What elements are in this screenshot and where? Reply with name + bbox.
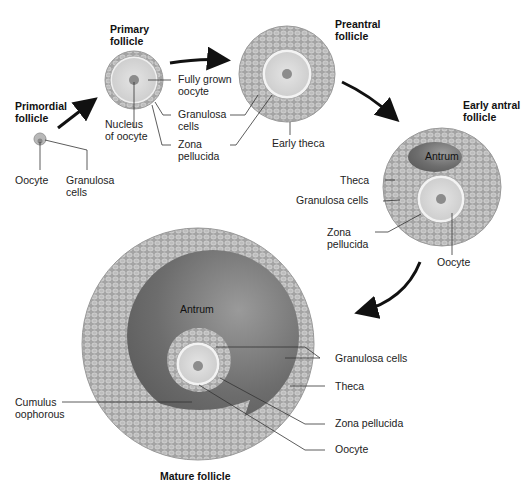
label-granulosa-early: Granulosa cells xyxy=(296,194,368,206)
preantral-follicle-graphic xyxy=(239,26,335,122)
label-cumulus-oophorous: Cumulus oophorous xyxy=(15,396,65,420)
diagram-graphics xyxy=(0,0,529,487)
label-early-theca: Early theca xyxy=(272,137,325,149)
label-antrum-mature: Antrum xyxy=(180,303,214,315)
label-granulosa-mature: Granulosa cells xyxy=(335,352,407,364)
mature-follicle-title: Mature follicle xyxy=(160,470,231,482)
preantral-follicle-title: Preantral follicle xyxy=(335,18,381,42)
label-theca-mature: Theca xyxy=(335,380,364,392)
label-fully-grown-oocyte: Fully grown oocyte xyxy=(178,73,232,97)
label-oocyte-early: Oocyte xyxy=(437,256,470,268)
label-granulosa-primary: Granulosa cells xyxy=(178,108,226,132)
early-antral-follicle-title: Early antral follicle xyxy=(463,99,520,123)
label-granulosa-primordial: Granulosa cells xyxy=(66,174,114,198)
label-zona-pellucida-early: Zona pellucida xyxy=(327,226,368,250)
label-zona-pellucida-primary: Zona pellucida xyxy=(178,138,219,162)
label-nucleus-of-oocyte: Nucleus of oocyte xyxy=(105,118,148,142)
label-theca-early: Theca xyxy=(340,174,369,186)
primordial-follicle-title: Primordial follicle xyxy=(15,100,67,124)
label-antrum-early: Antrum xyxy=(425,150,459,162)
label-oocyte-mature: Oocyte xyxy=(335,443,368,455)
primary-follicle-title: Primary follicle xyxy=(110,23,149,47)
label-zona-pellucida-mature: Zona pellucida xyxy=(335,417,403,429)
follicle-diagram: Primordial follicle Primary follicle Pre… xyxy=(0,0,529,487)
early-antral-follicle-graphic xyxy=(383,128,501,246)
label-oocyte-primordial: Oocyte xyxy=(15,174,48,186)
mature-follicle-graphic xyxy=(82,228,314,460)
